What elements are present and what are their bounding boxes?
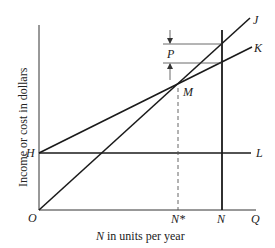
label-M: M	[183, 86, 193, 98]
label-Q: Q	[251, 213, 260, 225]
x-axis-title: N in units per year	[96, 230, 185, 242]
arrow-down-icon	[167, 38, 173, 44]
label-P: P	[167, 48, 174, 60]
arrow-up-icon	[167, 63, 173, 69]
label-O: O	[28, 212, 37, 224]
label-J: J	[253, 14, 258, 26]
break-even-diagram	[0, 0, 275, 248]
line-OJ	[39, 18, 250, 210]
label-L: L	[256, 147, 263, 159]
x-axis-text: in units per year	[104, 229, 185, 243]
y-axis-title: Income or cost in dollars	[17, 68, 29, 187]
x-axis-variable: N	[96, 229, 104, 243]
label-K: K	[254, 42, 262, 54]
label-N: N	[217, 213, 225, 225]
label-N-star: N*	[171, 213, 185, 225]
